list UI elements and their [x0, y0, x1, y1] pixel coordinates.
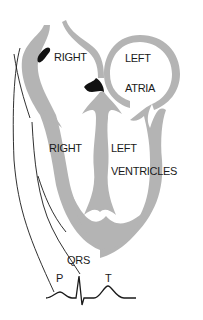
- heart-diagram: RIGHT LEFT ATRIA RIGHT LEFT VENTRICLES Q…: [0, 0, 203, 320]
- atrioventricular-node: [84, 78, 104, 92]
- label-right-ventricle: RIGHT: [49, 142, 82, 154]
- label-left-ventricle-2: VENTRICLES: [111, 165, 177, 177]
- label-left-atrium-2: ATRIA: [125, 82, 156, 94]
- label-qrs: QRS: [67, 254, 90, 266]
- left-atrium-wall: [104, 35, 180, 110]
- right-atrium-roof: [62, 20, 104, 78]
- label-left-atrium-1: LEFT: [125, 52, 151, 64]
- label-right-atrium: RIGHT: [54, 51, 87, 63]
- label-t-wave: T: [105, 272, 112, 284]
- label-left-ventricle-1: LEFT: [111, 142, 137, 154]
- label-p-wave: P: [56, 272, 63, 284]
